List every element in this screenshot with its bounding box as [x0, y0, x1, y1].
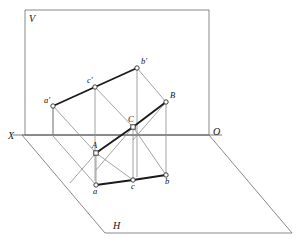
vertex-label-C: C — [128, 114, 134, 124]
v-projection-triangle-edge-cb — [95, 68, 137, 87]
vertex-label-b: b — [165, 176, 169, 186]
h-projection-edge-ac — [96, 180, 133, 185]
vertex-label-c: c — [131, 181, 135, 191]
depth-a-prime-to-A — [53, 106, 96, 153]
vertex-marker-A — [94, 151, 98, 155]
vertex-label-a: a — [93, 186, 97, 196]
vertex-marker-b_prime — [135, 66, 139, 70]
triangle-edges-group — [53, 68, 166, 185]
depth-b-prime-to-B — [137, 68, 166, 102]
vertex-label-B: B — [170, 90, 175, 100]
vertex-marker-B — [164, 100, 168, 104]
label-axis-x: X — [7, 130, 15, 141]
vertex-marker-C — [131, 125, 135, 129]
link-A-c — [96, 153, 133, 180]
h-projection-edge-cb — [133, 175, 166, 180]
vertex-label-a_prime: a' — [44, 95, 50, 105]
vertex-marker-c_prime — [93, 85, 97, 89]
projection-diagram: a'c'b'ACBacb V H X O — [0, 0, 305, 247]
vertex-label-b_prime: b' — [141, 56, 147, 66]
depth-A-extend — [70, 153, 96, 183]
link-C-b — [133, 127, 166, 175]
figure-canvas: a'c'b'ACBacb V H X O — [0, 0, 305, 247]
vertex-marker-a_prime — [51, 104, 55, 108]
vertical-recall-lines-group — [53, 68, 166, 185]
vertex-label-c_prime: c' — [87, 75, 93, 85]
v-projection-triangle-edge-ac — [53, 87, 95, 106]
vertex-labels-group: a'c'b'ACBacb — [44, 56, 175, 196]
space-triangle-edge-CB — [133, 102, 166, 127]
horizontal-projection-plane — [22, 135, 292, 233]
label-origin-o: O — [213, 126, 220, 137]
depth-lines-group — [53, 68, 166, 185]
label-vertical-plane: V — [29, 13, 37, 24]
label-horizontal-plane: H — [112, 220, 121, 231]
vertex-label-A: A — [91, 140, 98, 150]
